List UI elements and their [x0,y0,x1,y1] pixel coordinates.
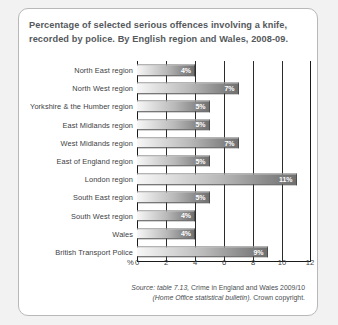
bar[interactable]: 5% [137,192,210,204]
plot-area: North East region 4% North West region 7… [19,55,319,273]
bar-row: Wales 4% [19,225,319,243]
bar-value-label: 5% [195,121,205,128]
bar-row: North West region 7% [19,79,319,97]
bar-row: British Transport Police 9% [19,243,319,261]
x-tick-label: 4 [193,258,197,267]
bar-category-label: South West region [71,211,133,220]
source-table-ref: Source: table 7.13, [131,284,189,291]
bar[interactable]: 4% [137,64,195,76]
bar-value-label: 9% [253,248,263,255]
source-copyright: Crown copyright. [251,294,305,301]
bar[interactable]: 5% [137,119,210,131]
bar-category-label: South East region [73,193,133,202]
bar-category-label: Wales [112,229,133,238]
x-tick-label: 0 [135,258,139,267]
chart-title-line-1: Percentage of selected serious offences … [29,19,311,33]
bar-value-label: 11% [279,176,293,183]
bar[interactable]: 5% [137,155,210,167]
bar-value-label: 4% [181,67,191,74]
bar[interactable]: 4% [137,228,195,240]
bar-value-label: 5% [195,103,205,110]
bar[interactable]: 7% [137,137,239,149]
source-note-line-1: Source: table 7.13, Crime in England and… [55,283,305,293]
bar[interactable]: 11% [137,173,297,185]
chart-page: Percentage of selected serious offences … [0,0,338,325]
source-note: Source: table 7.13, Crime in England and… [55,283,305,303]
bar[interactable]: 9% [137,246,268,258]
bar-value-label: 5% [195,157,205,164]
bar-value-label: 5% [195,194,205,201]
bar-row: West Midlands region 7% [19,134,319,152]
bar-row: London region 11% [19,170,319,188]
source-bulletin-ref: (Home Office statistical bulletin). [153,294,252,301]
bar-category-label: East of England region [57,156,133,165]
bar-category-label: Yorkshire & the Humber region [30,102,133,111]
bar-row: South East region 5% [19,188,319,206]
bar[interactable]: 4% [137,210,195,222]
bar[interactable]: 7% [137,83,239,95]
bar-row: East of England region 5% [19,152,319,170]
bar-category-label: North West region [72,84,133,93]
bar-row: Yorkshire & the Humber region 5% [19,97,319,115]
bar-rows: North East region 4% North West region 7… [19,55,319,255]
bar-category-label: London region [85,175,133,184]
x-tick-label: 12 [306,258,314,267]
bar-category-label: East Midlands region [63,120,134,129]
bar-row: North East region 4% [19,61,319,79]
x-axis-unit-label: % [127,258,134,267]
bar-row: East Midlands region 5% [19,116,319,134]
bar[interactable]: 5% [137,101,210,113]
bar-category-label: North East region [74,66,133,75]
chart-card: Percentage of selected serious offences … [18,8,318,316]
x-tick-label: 2 [164,258,168,267]
bar-value-label: 7% [224,139,234,146]
bar-value-label: 4% [181,212,191,219]
bar-category-label: British Transport Police [55,247,133,256]
source-note-line-2: (Home Office statistical bulletin). Crow… [55,293,305,303]
bar-row: South West region 4% [19,206,319,224]
bar-category-label: West Midlands region [61,138,133,147]
bar-value-label: 7% [224,85,234,92]
x-tick-label: 8 [251,258,255,267]
x-tick-label: 6 [222,258,226,267]
chart-title-line-2: recorded by police. By English region an… [29,33,311,47]
source-publication: Crime in England and Wales 2009/10 [189,284,305,291]
bar-value-label: 4% [181,230,191,237]
chart-title: Percentage of selected serious offences … [29,19,311,46]
x-tick-label: 10 [278,258,286,267]
